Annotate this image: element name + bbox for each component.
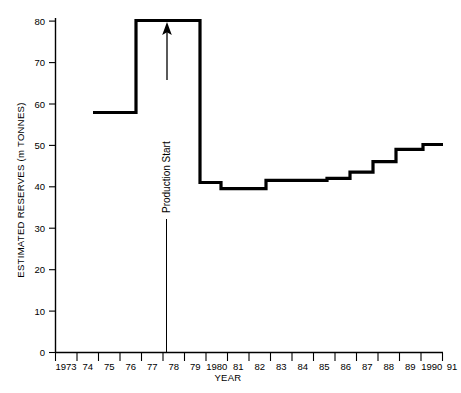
y-tick-label: 20: [34, 264, 45, 275]
x-axis-title: YEAR: [214, 372, 241, 383]
x-tick-label: 83: [276, 361, 287, 372]
x-tick-label: 77: [147, 361, 158, 372]
x-tick-label: 1990: [421, 361, 442, 372]
y-tick-label: 60: [34, 99, 45, 110]
x-tick-label: 78: [168, 361, 179, 372]
x-tick-label: 79: [190, 361, 201, 372]
y-axis-title: ESTIMATED RESERVES (m TONNES): [15, 102, 26, 277]
x-tick-label: 74: [82, 361, 93, 372]
x-tick-label: 88: [383, 361, 394, 372]
x-tick-label: 89: [405, 361, 416, 372]
x-tick-label: 86: [340, 361, 351, 372]
x-axis-tick-labels: 1973 74 75 76 77 78 79 1980 81 82 83 84 …: [55, 361, 457, 372]
y-tick-label: 70: [34, 57, 45, 68]
production-start-label: Production Start: [161, 141, 172, 213]
x-axis-ticks: [56, 353, 443, 362]
x-tick-label: 82: [254, 361, 265, 372]
y-tick-label: 80: [34, 16, 45, 27]
production-start-annotation: Production Start: [161, 22, 172, 352]
y-tick-label: 40: [34, 181, 45, 192]
x-tick-label: 75: [104, 361, 115, 372]
reserves-step-series: [93, 21, 443, 189]
x-tick-label: 1980: [206, 361, 227, 372]
x-tick-label: 1973: [55, 361, 76, 372]
y-tick-label: 30: [34, 223, 45, 234]
x-tick-label: 85: [319, 361, 330, 372]
x-tick-label: 84: [297, 361, 308, 372]
y-tick-label: 10: [34, 306, 45, 317]
x-tick-label: 87: [362, 361, 373, 372]
y-tick-label: 0: [40, 347, 45, 358]
x-tick-label: 76: [125, 361, 136, 372]
y-tick-label: 50: [34, 140, 45, 151]
x-tick-label: 81: [233, 361, 244, 372]
x-tick-label: 91: [447, 361, 458, 372]
y-axis-ticks: [49, 21, 56, 352]
y-axis-tick-labels: 0 10 20 30 40 50 60 70 80: [34, 16, 45, 358]
chart-container: 0 10 20 30 40 50 60 70 80: [0, 0, 461, 393]
step-chart: 0 10 20 30 40 50 60 70 80: [0, 0, 461, 393]
